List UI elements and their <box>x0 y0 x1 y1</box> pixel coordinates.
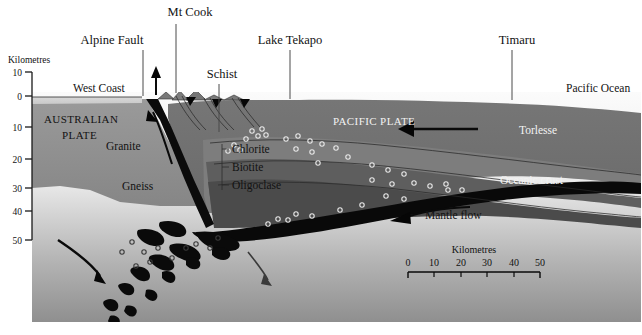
label-oligoclase: Oligoclase <box>232 179 281 192</box>
scalebar-tick-20: 20 <box>456 257 466 268</box>
cross-section-figure: 10 0 10 20 30 40 50 Kilometres Mt Cook A… <box>0 0 642 335</box>
label-west-coast: West Coast <box>73 82 126 94</box>
label-schist: Schist <box>207 67 238 81</box>
label-mt-cook: Mt Cook <box>168 5 214 19</box>
label-alpine-fault: Alpine Fault <box>81 33 144 47</box>
cross-section-svg: 10 0 10 20 30 40 50 Kilometres Mt Cook A… <box>0 0 642 335</box>
scalebar-tick-50: 50 <box>535 257 545 268</box>
axis-tick-50: 50 <box>13 236 23 246</box>
scalebar-tick-30: 30 <box>482 257 492 268</box>
label-torlesse: Torlesse <box>519 124 557 136</box>
label-biotite: Biotite <box>232 161 263 173</box>
axis-tick-minus10: 10 <box>13 68 23 78</box>
label-lake-tekapo: Lake Tekapo <box>258 33 323 47</box>
label-mantle-flow: Mantle flow <box>425 209 482 221</box>
label-oceanic-crust: Oceanic crust <box>500 174 564 186</box>
label-gneiss: Gneiss <box>122 180 154 192</box>
label-australian-plate: AUSTRALIAN <box>44 113 118 125</box>
axis-tick-20: 20 <box>13 155 23 165</box>
axis-tick-30: 30 <box>13 184 23 194</box>
label-australian-plate-2: PLATE <box>62 129 97 141</box>
scalebar-tick-40: 40 <box>509 257 519 268</box>
label-chlorite: Chlorite <box>232 143 270 155</box>
scalebar-tick-10: 10 <box>429 257 439 268</box>
label-granite: Granite <box>106 140 140 152</box>
scalebar-tick-0: 0 <box>406 257 411 268</box>
label-timaru: Timaru <box>499 33 536 47</box>
axis-title: Kilometres <box>8 55 51 65</box>
axis-tick-0: 0 <box>17 92 22 102</box>
label-pacific-ocean: Pacific Ocean <box>566 82 630 94</box>
axis-tick-10: 10 <box>13 123 23 133</box>
label-pacific-plate: PACIFIC PLATE <box>333 115 415 127</box>
scalebar-title: Kilometres <box>452 244 497 255</box>
west-coast-sea <box>32 97 142 104</box>
axis-tick-40: 40 <box>13 207 23 217</box>
